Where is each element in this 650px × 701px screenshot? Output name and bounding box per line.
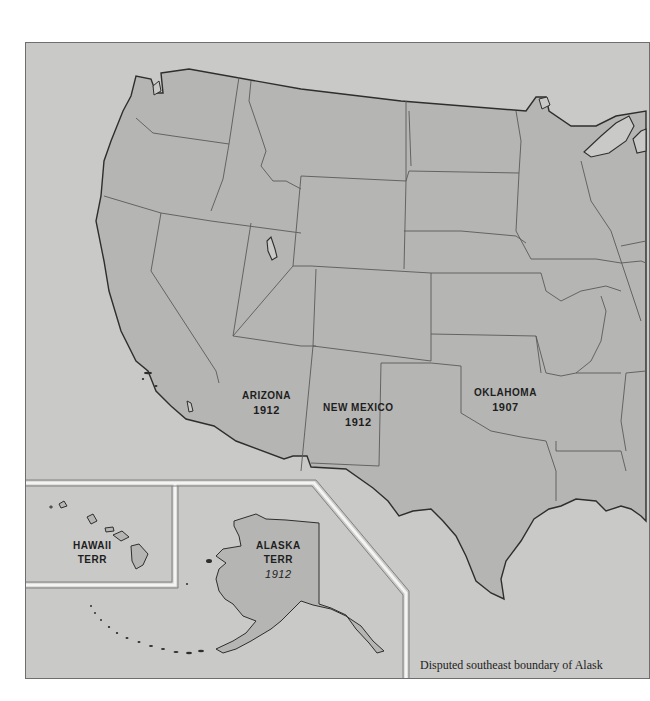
aleutian-islands (90, 559, 212, 654)
hawaii-label: HAWAII TERR (73, 539, 112, 567)
map-frame: ARIZONA 1912 NEW MEXICO 1912 OKLAHOMA 19… (25, 42, 650, 679)
new-mexico-label: NEW MEXICO 1912 (323, 401, 394, 429)
us-map-svg (26, 43, 650, 679)
map-caption: Disputed southeast boundary of Alask (420, 658, 603, 673)
arizona-label: ARIZONA 1912 (242, 389, 291, 417)
alaska-status: TERR (256, 553, 301, 567)
hawaii-status: TERR (73, 553, 112, 567)
contiguous-us-landmass (96, 69, 646, 599)
alaska-name: ALASKA (256, 540, 301, 551)
new-mexico-name: NEW MEXICO (323, 402, 394, 413)
arizona-name: ARIZONA (242, 390, 291, 401)
hawaii-name: HAWAII (73, 540, 112, 551)
oklahoma-label: OKLAHOMA 1907 (474, 386, 537, 414)
arizona-year: 1912 (242, 403, 291, 417)
new-mexico-year: 1912 (323, 415, 394, 429)
oklahoma-name: OKLAHOMA (474, 387, 537, 398)
alaska-label: ALASKA TERR 1912 (256, 539, 301, 581)
alaska-year: 1912 (256, 567, 301, 581)
oklahoma-year: 1907 (474, 400, 537, 414)
